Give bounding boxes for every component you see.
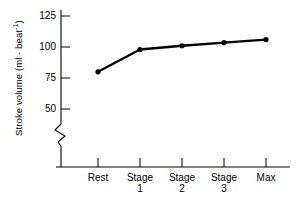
data-point-max bbox=[263, 37, 268, 42]
data-point-rest bbox=[95, 69, 100, 74]
data-point-markers bbox=[95, 37, 268, 74]
data-point-stage-1 bbox=[137, 47, 142, 52]
y-tick-label-50: 50 bbox=[26, 103, 56, 114]
y-tick-label-75: 75 bbox=[26, 72, 56, 83]
y-tick-label-100: 100 bbox=[26, 41, 56, 52]
y-axis-title-text: Stroke volume (ml · beat bbox=[13, 30, 24, 136]
y-axis-title-exponent: -1 bbox=[12, 24, 19, 30]
chart-figure: Stroke volume (ml · beat-1) 125 100 75 5… bbox=[0, 0, 296, 203]
y-axis-title-suffix: ) bbox=[13, 20, 24, 23]
y-tick-label-125: 125 bbox=[26, 10, 56, 21]
y-axis-title: Stroke volume (ml · beat-1) bbox=[12, 3, 24, 153]
axis-break-zigzag bbox=[55, 124, 65, 146]
x-tick-label-max: Max bbox=[236, 172, 296, 183]
x-tick-label-max-line1: Max bbox=[236, 172, 296, 183]
data-point-stage-2 bbox=[179, 43, 184, 48]
x-tick-label-stage-3-line2: 3 bbox=[194, 183, 254, 194]
data-point-stage-3 bbox=[221, 40, 226, 45]
